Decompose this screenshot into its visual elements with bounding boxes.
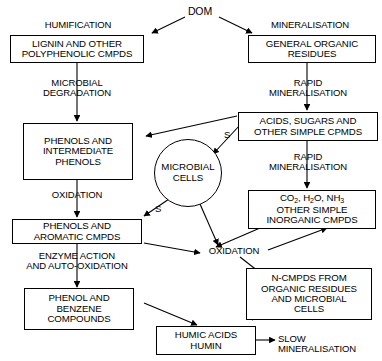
node-humic-acids-humin: HUMIC ACIDS HUMIN	[156, 326, 256, 355]
node-humic-acids-label: HUMIC ACIDS HUMIN	[175, 330, 237, 351]
node-phenols-and-intermediate-phenols: PHENOLS AND INTERMEDIATE PHENOLS	[23, 123, 133, 180]
node-phenols-intermediate-label: PHENOLS AND INTERMEDIATE PHENOLS	[43, 136, 113, 167]
node-phenols-aromatic-label: PHENOLS AND AROMATIC CMPDS	[34, 221, 121, 242]
label-humification: HUMIFICATION	[14, 20, 142, 30]
node-phenol-and-benzene-compounds: PHENOL AND BENZENE COMPOUNDS	[24, 288, 134, 330]
label-oxidation-center: OXIDATION	[196, 246, 272, 256]
label-slow-mineralisation: SLOW MINERALISATION	[278, 334, 382, 355]
node-acids-sugars-label: ACIDS, SUGARS AND OTHER SIMPLE CPMDS	[254, 116, 362, 137]
label-s-acids-to-cells: S	[222, 130, 232, 140]
inorganic-h2o-prefix: , H	[298, 192, 310, 203]
node-inorganic-other-label: OTHER SIMPLE INORGANIC CMPDS	[266, 205, 357, 226]
edge-aromatic-to-oxidation	[144, 243, 200, 253]
label-dom: DOM	[178, 6, 222, 18]
label-enzyme-action: ENZYME ACTION AND AUTO-OXIDATION	[2, 251, 152, 272]
node-microbial-cells-label: MICROBIAL CELLS	[161, 162, 214, 183]
node-acids-sugars-simple-cmpds: ACIDS, SUGARS AND OTHER SIMPLE CPMDS	[238, 112, 378, 141]
node-lignin-and-polyphenolic: LIGNIN AND OTHER POLYPHENOLIC CMPDS	[10, 35, 144, 63]
label-microbial-degradation: MICROBIAL DEGRADATION	[17, 78, 137, 99]
label-rapid-mineralisation-top: RAPID MINERALISATION	[247, 78, 369, 99]
label-rapid-mineralisation-mid: RAPID MINERALISATION	[247, 152, 369, 173]
label-mineralisation: MINERALISATION	[244, 20, 376, 30]
edge-dom-to-lignin	[152, 17, 185, 33]
inorganic-co2-prefix: CO	[280, 192, 294, 203]
label-oxidation-left: OXIDATION	[18, 190, 136, 200]
edge-benzene-to-humic	[144, 303, 197, 325]
node-phenols-and-aromatic-cmpds: PHENOLS AND AROMATIC CMPDS	[12, 219, 142, 244]
flow-diagram: DOM HUMIFICATION MINERALISATION MICROBIA…	[0, 0, 382, 361]
node-lignin-label: LIGNIN AND OTHER POLYPHENOLIC CMPDS	[22, 39, 133, 60]
node-microbial-cells: MICROBIAL CELLS	[154, 139, 222, 207]
node-phenol-benzene-label: PHENOL AND BENZENE COMPOUNDS	[47, 293, 110, 324]
edge-cells-to-oxidation	[200, 204, 218, 245]
node-inorganic-cmpds: CO2, H2O, NH3 OTHER SIMPLE INORGANIC CMP…	[248, 190, 376, 229]
node-general-organic-label: GENERAL ORGANIC RESIDUES	[266, 39, 358, 60]
node-n-cmpds-label: N-CMPDS FROM ORGANIC RESIDUES AND MICROB…	[261, 273, 357, 315]
node-n-cmpds-organic-residues: N-CMPDS FROM ORGANIC RESIDUES AND MICROB…	[246, 268, 372, 320]
node-general-organic-residues: GENERAL ORGANIC RESIDUES	[248, 35, 376, 63]
inorganic-nh3-prefix: O, NH	[314, 192, 340, 203]
edge-oxidation-to-inorganic	[268, 228, 327, 250]
label-s-cells-to-aromatic: S	[153, 204, 163, 214]
node-inorganic-formula-line: CO2, H2O, NH3	[280, 193, 344, 204]
